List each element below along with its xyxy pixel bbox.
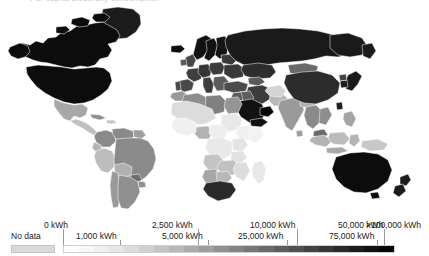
legend-tick-50000: [384, 229, 385, 245]
legend-scale-segment: [319, 246, 334, 252]
country-north-korea[interactable]: [339, 74, 347, 81]
legend-scale-segment: [184, 246, 199, 252]
legend-scale-segment: [364, 246, 379, 252]
country-tasmania[interactable]: [370, 192, 380, 199]
legend-tick-2500: [198, 229, 199, 245]
legend-scale-segment: [139, 246, 154, 252]
legend-scale-segment: [124, 246, 139, 252]
legend-scale-segment: [349, 246, 364, 252]
legend-scale-segment: [154, 246, 169, 252]
legend-no-data-swatch[interactable]: [11, 245, 55, 253]
country-sri-lanka[interactable]: [296, 130, 303, 137]
legend-scale-segment: [79, 246, 94, 252]
legend-label-10000: 10,000 kWh: [250, 220, 295, 230]
country-portugal[interactable]: [175, 81, 181, 91]
country-ireland[interactable]: [180, 59, 187, 66]
legend-label-5000: 5,000 kWh: [162, 231, 203, 241]
legend-scale-segment: [214, 246, 229, 252]
legend-scale-segment: [289, 246, 304, 252]
legend-scale-segment: [244, 246, 259, 252]
legend-scale-segment: [229, 246, 244, 252]
legend-label-1000: 1,000 kWh: [76, 231, 117, 241]
legend-label-over-100000: >100,000 kWh: [366, 220, 421, 230]
map-container[interactable]: [0, 5, 429, 217]
legend-tick-0: [63, 229, 64, 245]
country-turkey[interactable]: [224, 81, 248, 93]
legend-scale-segment: [259, 246, 274, 252]
legend-scale-segment: [109, 246, 124, 252]
country-kazakhstan[interactable]: [241, 63, 276, 79]
legend-tick-10000: [297, 229, 298, 245]
legend: 0 kWh 2,500 kWh 10,000 kWh 50,000 kWh >1…: [0, 218, 429, 256]
page-root: Per capita electricity consumption: [0, 0, 429, 256]
world-map-svg[interactable]: [0, 5, 429, 217]
legend-scale-segment: [379, 246, 394, 252]
legend-scale-segment: [304, 246, 319, 252]
legend-scale-segment: [64, 246, 79, 252]
legend-scale-segment: [274, 246, 289, 252]
legend-label-0: 0 kWh: [44, 220, 68, 230]
legend-label-no-data: No data: [11, 231, 41, 241]
legend-scale-segment: [94, 246, 109, 252]
legend-label-25000: 25,000 kWh: [238, 231, 283, 241]
country-taiwan[interactable]: [336, 102, 343, 110]
legend-scale-segment: [199, 246, 214, 252]
legend-label-2500: 2,500 kWh: [152, 220, 193, 230]
legend-scale-segment: [334, 246, 349, 252]
country-south-korea[interactable]: [340, 80, 348, 88]
page-title: Per capita electricity consumption: [30, 0, 159, 3]
country-poland[interactable]: [209, 62, 225, 75]
country-uruguay[interactable]: [138, 181, 146, 188]
legend-scale-segment: [169, 246, 184, 252]
legend-scale-bar[interactable]: [63, 245, 395, 253]
legend-label-75000: 75,000 kWh: [329, 231, 374, 241]
